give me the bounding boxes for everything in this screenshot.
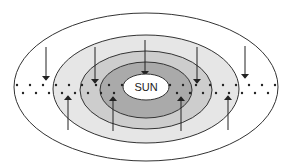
particle-dot — [68, 84, 70, 86]
particle-dot — [87, 92, 89, 94]
sun-label: SUN — [134, 81, 157, 93]
sun-layer: SUN — [123, 74, 169, 100]
particle-dot — [248, 84, 250, 86]
particle-dot — [35, 92, 37, 94]
particle-dot — [202, 92, 204, 94]
particle-dot — [176, 92, 178, 94]
sun-zones-diagram: SUN — [0, 0, 291, 168]
particle-dot — [228, 92, 230, 94]
particle-dot — [81, 84, 83, 86]
particle-dot — [74, 92, 76, 94]
particle-dot — [29, 84, 31, 86]
particle-dot — [235, 84, 237, 86]
particle-dot — [189, 92, 191, 94]
particle-dot — [182, 84, 184, 86]
particle-dot — [95, 84, 97, 86]
particle-dot — [274, 84, 276, 86]
particle-dot — [108, 84, 110, 86]
particle-dot — [113, 92, 115, 94]
particle-dot — [61, 92, 63, 94]
particle-dot — [42, 84, 44, 86]
particle-dot — [195, 84, 197, 86]
particle-dot — [241, 92, 243, 94]
particle-dot — [55, 84, 57, 86]
particle-dot — [100, 92, 102, 94]
particle-dot — [222, 84, 224, 86]
particle-dot — [16, 84, 18, 86]
particle-dot — [261, 84, 263, 86]
diagram-canvas: SUN — [0, 0, 291, 168]
particle-dot — [22, 92, 24, 94]
particle-dot — [215, 92, 217, 94]
particle-dot — [267, 92, 269, 94]
particle-dot — [209, 84, 211, 86]
particle-dot — [254, 92, 256, 94]
particle-dot — [48, 92, 50, 94]
